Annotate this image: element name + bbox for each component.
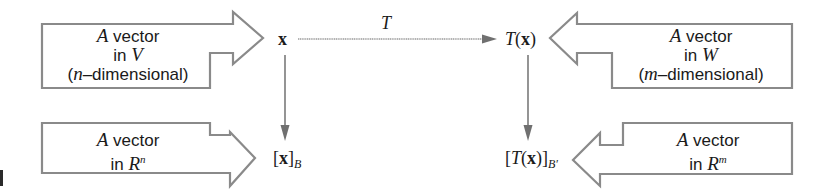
callout-label-bottom-left: A vector in Rn: [48, 131, 208, 174]
node-T-of-x: T(x): [505, 29, 536, 49]
node-x: x: [278, 29, 287, 49]
edge-label-T: T: [381, 13, 391, 33]
callout-label-top-left: A vector in V (n–dimensional): [48, 27, 208, 84]
callout-line-1: A vector: [615, 27, 787, 46]
callout-line-2: in W: [615, 46, 787, 65]
node-x-coord-B: [x]B: [273, 148, 301, 174]
coordinate-arrowhead-left-icon: [281, 125, 290, 141]
callout-line-1: A vector: [628, 131, 788, 150]
callout-line-2: in Rn: [48, 150, 208, 174]
callout-line-2: in Rm: [628, 150, 788, 174]
callout-line-2: in V: [48, 46, 208, 65]
callout-label-top-right: A vector in W (m–dimensional): [615, 27, 787, 84]
transformation-arrowhead-icon: [482, 35, 497, 44]
callout-line-1: A vector: [48, 27, 208, 46]
node-T-of-x-coord-B-prime: [T(x)]B′: [505, 148, 558, 174]
callout-label-bottom-right: A vector in Rm: [628, 131, 788, 174]
coordinate-arrowhead-right-icon: [524, 125, 533, 141]
callout-line-1: A vector: [48, 131, 208, 150]
callout-line-3: (n–dimensional): [48, 65, 208, 84]
callout-line-3: (m–dimensional): [615, 65, 787, 84]
